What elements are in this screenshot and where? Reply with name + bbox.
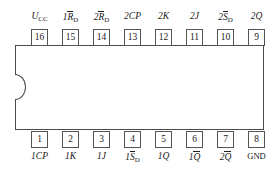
- pin-pad-16[interactable]: 16: [31, 29, 48, 46]
- pin-pad-1[interactable]: 1: [31, 131, 48, 148]
- label-overbar-symbol: S: [130, 151, 135, 162]
- pin-pad-2[interactable]: 2: [62, 131, 79, 148]
- pin-pad-7[interactable]: 7: [217, 131, 234, 148]
- pin-pad-15[interactable]: 15: [62, 29, 79, 46]
- pin-pad-8[interactable]: 8: [248, 131, 265, 148]
- pin-pad-11[interactable]: 11: [186, 29, 203, 46]
- pin-pad-5[interactable]: 5: [155, 131, 172, 148]
- pin-pad-14[interactable]: 14: [93, 29, 110, 46]
- ic-pinout-diagram: 16UCC151RD142RD132CP122K112J102SD92Q 11C…: [0, 0, 279, 171]
- pin-label-9: 2Q: [230, 11, 280, 22]
- label-overbar-symbol: S: [223, 11, 228, 22]
- label-prefix: 2Q: [251, 11, 263, 21]
- pin-pad-6[interactable]: 6: [186, 131, 203, 148]
- pin-pad-10[interactable]: 10: [217, 29, 234, 46]
- pin-label-8: GND: [230, 151, 280, 162]
- pin-pad-13[interactable]: 13: [124, 29, 141, 46]
- pin-pad-12[interactable]: 12: [155, 29, 172, 46]
- label-prefix: GND: [247, 151, 265, 161]
- pin-pad-4[interactable]: 4: [124, 131, 141, 148]
- chip-body-outline: [15, 45, 264, 130]
- pin-pad-3[interactable]: 3: [93, 131, 110, 148]
- pin-pad-9[interactable]: 9: [248, 29, 265, 46]
